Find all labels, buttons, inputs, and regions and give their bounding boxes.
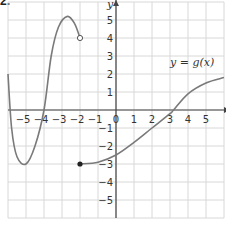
y-tick-label: 4 xyxy=(107,33,113,44)
y-tick-label: −5 xyxy=(98,195,113,206)
y-axis-label: y xyxy=(106,0,114,11)
function-label: y = g(x) xyxy=(169,56,214,69)
y-tick-label: −4 xyxy=(98,177,113,188)
y-tick-label: 2 xyxy=(107,69,113,80)
y-tick-label: 3 xyxy=(107,51,113,62)
x-tick-label: −2 xyxy=(70,114,85,125)
open-endpoint-icon xyxy=(77,35,82,40)
x-tick-label: −5 xyxy=(16,114,31,125)
tick-labels: −5−4−3−2−1012345−5−4−3−2−112345xy xyxy=(16,0,226,206)
x-axis-arrow-icon xyxy=(224,107,226,113)
y-tick-label: −2 xyxy=(98,141,113,152)
graph-of-g: −5−4−3−2−1012345−5−4−3−2−112345xy y = g(… xyxy=(0,0,226,225)
axes xyxy=(8,0,226,218)
x-tick-label: 2 xyxy=(149,114,155,125)
x-tick-label: 0 xyxy=(113,114,119,125)
x-tick-label: −3 xyxy=(52,114,67,125)
x-tick-label: 5 xyxy=(203,114,209,125)
y-tick-label: 1 xyxy=(107,87,113,98)
y-axis-arrow-icon xyxy=(113,0,119,6)
y-tick-label: −1 xyxy=(98,123,113,134)
y-tick-label: 5 xyxy=(107,15,113,26)
x-tick-label: 4 xyxy=(185,114,191,125)
closed-endpoint-icon xyxy=(77,161,82,166)
x-tick-label: 1 xyxy=(131,114,137,125)
